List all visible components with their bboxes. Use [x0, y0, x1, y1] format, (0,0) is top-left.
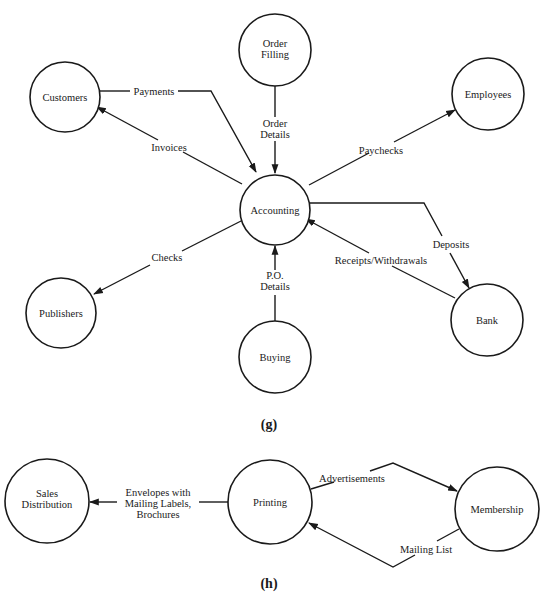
node-label-customers: Customers [43, 92, 88, 103]
flow-label-receipts-withdrawals: Receipts/Withdrawals [335, 255, 427, 266]
flow-label-mailing-list: Mailing List [400, 544, 452, 555]
flow-label-paychecks: Paychecks [359, 145, 403, 156]
node-printing: Printing [228, 460, 312, 544]
flow-label-order-details-line2: Details [260, 129, 290, 140]
flow-envelopes: Envelopes with Mailing Labels, Brochures [90, 487, 228, 520]
flow-deposits: Deposits [310, 203, 469, 288]
flow-receipts-withdrawals: Receipts/Withdrawals [306, 219, 455, 298]
node-label-sales-distribution-line1: Sales [36, 488, 58, 499]
node-label-order-filling-line2: Filling [261, 49, 290, 60]
node-label-buying: Buying [260, 352, 292, 363]
node-membership: Membership [455, 467, 539, 551]
flow-label-advertisements: Advertisements [319, 473, 385, 484]
flow-paychecks: Paychecks [309, 110, 455, 185]
flow-label-envelopes-line3: Brochures [136, 509, 179, 520]
node-label-employees: Employees [465, 89, 512, 100]
data-flow-diagrams: Payments Invoices Order Details Paycheck… [0, 0, 552, 597]
flow-label-order-details-line1: Order [263, 118, 288, 129]
flow-checks: Checks [94, 220, 243, 294]
flow-order-details: Order Details [260, 86, 290, 173]
flow-label-checks: Checks [152, 252, 183, 263]
node-bank: Bank [451, 284, 523, 356]
node-buying: Buying [239, 321, 311, 393]
node-label-bank: Bank [476, 315, 499, 326]
caption-g: (g) [261, 417, 278, 433]
flow-advertisements: Advertisements [311, 463, 457, 491]
node-employees: Employees [452, 58, 524, 130]
node-label-sales-distribution-line2: Distribution [22, 499, 74, 510]
node-label-accounting: Accounting [251, 205, 301, 216]
flow-label-po-details-line2: Details [260, 281, 290, 292]
flow-label-payments: Payments [134, 86, 175, 97]
node-label-printing: Printing [253, 497, 288, 508]
flow-po-details: P.O. Details [260, 246, 290, 321]
flow-invoices: Invoices [97, 107, 242, 184]
flow-mailing-list: Mailing List [309, 523, 459, 567]
node-order-filling: Order Filling [239, 14, 311, 86]
node-label-membership: Membership [470, 504, 523, 515]
node-accounting: Accounting [240, 175, 310, 245]
flow-payments: Payments [100, 86, 256, 172]
flow-label-po-details-line1: P.O. [266, 270, 284, 281]
node-label-publishers: Publishers [39, 308, 83, 319]
flow-label-envelopes-line2: Mailing Labels, [125, 498, 192, 509]
flow-label-deposits: Deposits [433, 239, 470, 250]
diagram-h: Envelopes with Mailing Labels, Brochures… [5, 459, 539, 592]
node-sales-distribution: Sales Distribution [5, 459, 89, 543]
node-label-order-filling-line1: Order [263, 38, 288, 49]
node-customers: Customers [30, 62, 100, 132]
node-publishers: Publishers [26, 278, 96, 348]
caption-h: (h) [260, 576, 277, 592]
flow-label-envelopes-line1: Envelopes with [125, 487, 191, 498]
flow-label-invoices: Invoices [151, 142, 187, 153]
diagram-g: Payments Invoices Order Details Paycheck… [26, 14, 524, 433]
